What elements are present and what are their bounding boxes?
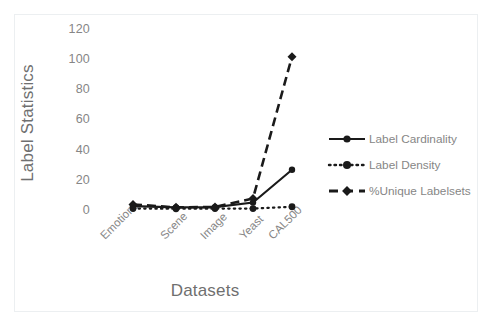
legend-item-unique-labelsets: %Unique Labelsets xyxy=(327,183,471,199)
legend-label-unique-labelsets: %Unique Labelsets xyxy=(369,183,471,199)
data-point xyxy=(250,199,256,205)
data-point xyxy=(287,52,296,61)
data-point xyxy=(289,167,295,173)
legend-label-density: Label Density xyxy=(369,157,440,173)
legend-item-label-cardinality: Label Cardinality xyxy=(327,131,457,147)
legend-symbol-dotted-line xyxy=(327,157,367,173)
legend-symbol-solid-line xyxy=(327,131,367,147)
data-point xyxy=(289,203,296,210)
data-point xyxy=(250,205,257,212)
data-point xyxy=(173,205,180,212)
series-label-cardinality xyxy=(130,167,295,211)
legend-item-label-density: Label Density xyxy=(327,157,440,173)
legend-label-cardinality: Label Cardinality xyxy=(369,131,457,147)
data-point xyxy=(130,205,137,212)
data-point xyxy=(212,205,219,212)
legend-symbol-dashed-line xyxy=(327,183,367,199)
